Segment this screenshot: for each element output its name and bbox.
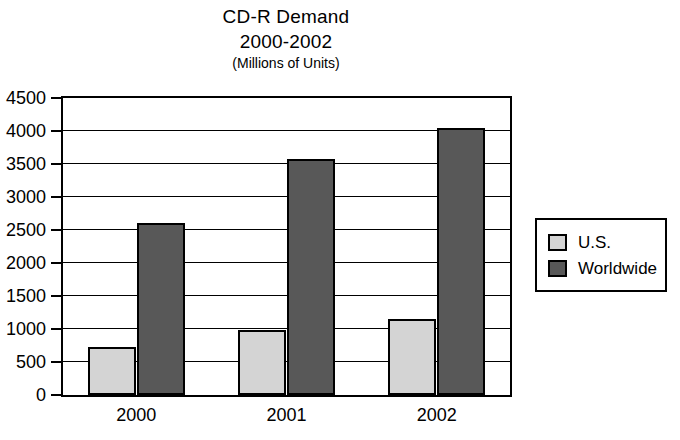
y-tick-label: 4500 [6,89,46,107]
y-tick-mark [51,196,61,198]
bars-layer [61,96,512,397]
chart-figure: CD-R Demand 2000-2002 (Millions of Units… [0,0,680,440]
chart-legend: U.S.Worldwide [535,218,667,292]
y-tick-label: 4000 [6,122,46,140]
y-tick-label: 2000 [6,254,46,272]
chart-title: CD-R Demand [60,4,512,29]
y-tick-mark [51,97,61,99]
x-axis: 200020012002 [61,399,512,439]
x-tick-label-2001: 2001 [266,405,306,425]
x-tick-label-2002: 2002 [417,405,457,425]
legend-swatch-icon [548,234,567,251]
legend-swatch-icon [548,260,567,277]
chart-subtitle: 2000-2002 [60,29,512,54]
bar-2000-worldwide [137,223,185,395]
legend-label: Worldwide [578,259,657,278]
bar-2000-us [88,347,136,395]
y-tick-mark [51,361,61,363]
bar-2002-worldwide [437,128,485,395]
y-tick-mark [51,328,61,330]
y-tick-mark [51,163,61,165]
y-tick-label: 3500 [6,155,46,173]
x-tick-label-2000: 2000 [116,405,156,425]
legend-label: U.S. [578,233,611,252]
legend-item-us[interactable]: U.S. [548,229,655,255]
chart-title-block: CD-R Demand 2000-2002 (Millions of Units… [60,4,512,73]
y-tick-mark [51,229,61,231]
y-tick-label: 0 [36,386,46,404]
y-tick-label: 3000 [6,188,46,206]
y-tick-mark [51,130,61,132]
y-tick-mark [51,394,61,396]
y-axis: 050010001500200025003000350040004500 [0,88,61,408]
bar-2001-us [238,330,286,395]
chart-units-note: (Millions of Units) [60,54,512,73]
y-tick-label: 500 [16,353,46,371]
bar-2001-worldwide [287,159,335,395]
y-tick-mark [51,295,61,297]
bar-2002-us [388,319,436,395]
y-tick-label: 2500 [6,221,46,239]
y-tick-label: 1000 [6,320,46,338]
y-tick-mark [51,262,61,264]
legend-item-worldwide[interactable]: Worldwide [548,255,655,281]
y-tick-label: 1500 [6,287,46,305]
